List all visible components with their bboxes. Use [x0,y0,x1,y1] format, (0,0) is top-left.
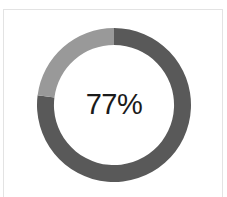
donut-chart: 77% [4,10,224,197]
donut-slice-remaining [38,28,114,97]
clipped-section-heading [14,0,134,3]
chart-card: 77% [3,9,223,197]
donut-slice-group [37,28,191,182]
screenshot-root: 77% [0,0,227,197]
donut-chart-svg [35,26,193,184]
